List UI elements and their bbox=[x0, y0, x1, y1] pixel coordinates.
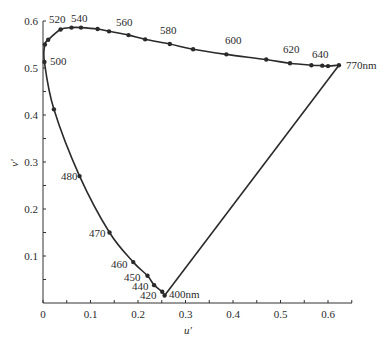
wavelength-label: 460 bbox=[111, 258, 128, 270]
x-tick-label: 0.3 bbox=[179, 308, 193, 320]
x-tick-label: 0.4 bbox=[226, 308, 240, 320]
wavelength-marker bbox=[77, 174, 81, 178]
wavelength-label: 400nm bbox=[169, 288, 200, 300]
wavelength-marker bbox=[145, 274, 149, 278]
wavelength-marker bbox=[58, 27, 62, 31]
y-tick-label: 0.6 bbox=[24, 15, 38, 27]
wavelength-marker bbox=[224, 52, 228, 56]
wavelength-label: 540 bbox=[71, 12, 88, 24]
wavelength-marker bbox=[326, 64, 330, 68]
x-tick-label: 0.6 bbox=[321, 308, 335, 320]
x-tick-label: 0 bbox=[40, 308, 46, 320]
wavelength-marker bbox=[43, 42, 47, 46]
wavelength-marker bbox=[162, 293, 166, 297]
wavelength-marker bbox=[79, 25, 83, 29]
wavelength-marker bbox=[288, 61, 292, 65]
y-axis-title: v' bbox=[8, 159, 20, 167]
wavelength-label: 620 bbox=[283, 43, 300, 55]
chromaticity-diagram: 0 0.1 0.2 0.3 0.4 0.5 0.6 0.1 0.2 0.3 0.… bbox=[0, 0, 385, 339]
wavelength-marker bbox=[309, 63, 313, 67]
y-tick-label: 0.2 bbox=[24, 203, 38, 215]
spectral-locus-curve bbox=[44, 27, 339, 295]
wavelength-marker bbox=[152, 283, 156, 287]
x-axis-title: u' bbox=[184, 324, 193, 336]
wavelength-label: 450 bbox=[124, 271, 141, 283]
wavelength-marker bbox=[107, 230, 111, 234]
wavelength-marker bbox=[69, 25, 73, 29]
wavelength-label: 560 bbox=[116, 16, 133, 28]
wavelength-marker bbox=[191, 47, 195, 51]
wavelength-label: 600 bbox=[225, 34, 242, 46]
wavelength-label: 470 bbox=[89, 227, 106, 239]
wavelength-label: 580 bbox=[160, 24, 177, 36]
wavelength-labels: 400nm 420 440 450 460 470 480 500 520 54… bbox=[49, 12, 377, 301]
wavelength-label: 480 bbox=[61, 170, 78, 182]
wavelength-marker bbox=[337, 63, 341, 67]
purple-line bbox=[165, 65, 339, 295]
wavelength-marker bbox=[126, 33, 130, 37]
wavelength-marker bbox=[52, 107, 56, 111]
wavelength-marker bbox=[143, 37, 147, 41]
y-tick-label: 0.5 bbox=[24, 62, 38, 74]
x-tick-label: 0.1 bbox=[84, 308, 98, 320]
x-tick-label: 0.2 bbox=[131, 308, 145, 320]
y-tick-labels: 0.1 0.2 0.3 0.4 0.5 0.6 bbox=[24, 15, 38, 262]
wavelength-label: 500 bbox=[50, 55, 67, 67]
axes bbox=[43, 21, 352, 303]
wavelength-marker bbox=[264, 57, 268, 61]
wavelength-label: 520 bbox=[49, 13, 66, 25]
wavelength-marker bbox=[160, 290, 164, 294]
x-tick-labels: 0 0.1 0.2 0.3 0.4 0.5 0.6 bbox=[40, 308, 335, 320]
y-tick-label: 0.3 bbox=[24, 156, 38, 168]
wavelength-label: 770nm bbox=[346, 59, 377, 71]
wavelength-marker bbox=[320, 63, 324, 67]
wavelength-marker bbox=[95, 27, 99, 31]
wavelength-marker bbox=[42, 60, 46, 64]
x-tick-label: 0.5 bbox=[274, 308, 288, 320]
wavelength-marker bbox=[107, 29, 111, 33]
wavelength-marker bbox=[168, 42, 172, 46]
y-tick-label: 0.4 bbox=[24, 109, 38, 121]
wavelength-marker bbox=[131, 260, 135, 264]
wavelength-markers bbox=[42, 25, 341, 297]
wavelength-marker bbox=[46, 38, 50, 42]
wavelength-label: 640 bbox=[312, 48, 329, 60]
y-tick-label: 0.1 bbox=[24, 250, 38, 262]
